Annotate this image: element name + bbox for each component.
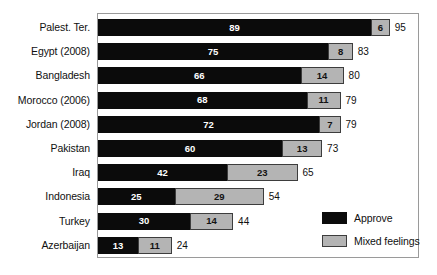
bar-total-value: 54 bbox=[264, 188, 280, 205]
bar-total-value: 73 bbox=[322, 140, 338, 157]
bar-segment-mixed-feelings[interactable]: 23 bbox=[227, 164, 298, 181]
chart-row: Morocco (2006)681179 bbox=[0, 92, 437, 109]
legend-label-approve: Approve bbox=[354, 212, 392, 224]
bar-value-mixed-feelings: 6 bbox=[378, 23, 383, 33]
bar-value-mixed-feelings: 14 bbox=[317, 71, 328, 81]
legend-label-mixed-feelings: Mixed feelings bbox=[354, 235, 420, 247]
chart-legend: Approve Mixed feelings bbox=[322, 210, 418, 256]
stacked-bar[interactable]: 6811 bbox=[98, 92, 341, 109]
bar-value-mixed-feelings: 14 bbox=[206, 216, 217, 226]
bar-total-value: 24 bbox=[172, 237, 188, 254]
row-label: Indonesia bbox=[45, 188, 90, 205]
chart-row: Bangladesh661480 bbox=[0, 67, 437, 84]
stacked-bar[interactable]: 727 bbox=[98, 116, 341, 133]
row-label: Turkey bbox=[59, 213, 90, 230]
legend-item-mixed-feelings[interactable]: Mixed feelings bbox=[322, 233, 418, 249]
chart-row: Iraq422365 bbox=[0, 164, 437, 181]
stacked-bar[interactable]: 4223 bbox=[98, 164, 298, 181]
bar-total-value: 80 bbox=[344, 67, 360, 84]
bar-value-approve: 72 bbox=[203, 120, 214, 130]
bar-total-value: 44 bbox=[233, 213, 249, 230]
chart-row: Jordan (2008)72779 bbox=[0, 116, 437, 133]
bar-total-value: 79 bbox=[341, 92, 357, 109]
row-label: Azerbaijan bbox=[41, 237, 90, 254]
bar-segment-mixed-feelings[interactable]: 11 bbox=[138, 237, 172, 254]
row-label: Palest. Ter. bbox=[39, 19, 90, 36]
bar-value-approve: 42 bbox=[157, 168, 168, 178]
stacked-bar[interactable]: 6614 bbox=[98, 67, 344, 84]
chart-row: Pakistan601373 bbox=[0, 140, 437, 157]
bar-value-mixed-feelings: 13 bbox=[297, 144, 308, 154]
bar-segment-mixed-feelings[interactable]: 8 bbox=[328, 43, 353, 60]
stacked-bar[interactable]: 758 bbox=[98, 43, 353, 60]
bar-value-mixed-feelings: 8 bbox=[338, 47, 343, 57]
bar-segment-approve[interactable]: 60 bbox=[98, 140, 282, 157]
row-label: Pakistan bbox=[51, 140, 90, 157]
bar-value-mixed-feelings: 7 bbox=[327, 120, 332, 130]
bar-segment-mixed-feelings[interactable]: 29 bbox=[175, 188, 264, 205]
bar-segment-mixed-feelings[interactable]: 14 bbox=[301, 67, 344, 84]
legend-swatch-approve-icon bbox=[322, 212, 347, 224]
bar-value-mixed-feelings: 11 bbox=[319, 95, 329, 105]
stacked-bar[interactable]: 1311 bbox=[98, 237, 172, 254]
bar-segment-mixed-feelings[interactable]: 6 bbox=[371, 19, 389, 36]
row-label: Jordan (2008) bbox=[26, 116, 90, 133]
row-label: Iraq bbox=[72, 164, 90, 181]
bar-value-approve: 66 bbox=[194, 71, 205, 81]
bar-segment-approve[interactable]: 42 bbox=[98, 164, 227, 181]
bar-total-value: 65 bbox=[298, 164, 314, 181]
bar-value-approve: 60 bbox=[185, 144, 196, 154]
legend-swatch-mixed-feelings-icon bbox=[322, 235, 347, 247]
chart-row: Indonesia252954 bbox=[0, 188, 437, 205]
bar-value-approve: 68 bbox=[197, 95, 208, 105]
bar-segment-approve[interactable]: 72 bbox=[98, 116, 319, 133]
bar-total-value: 79 bbox=[341, 116, 357, 133]
chart-row: Palest. Ter.89695 bbox=[0, 19, 437, 36]
bar-segment-approve[interactable]: 66 bbox=[98, 67, 301, 84]
legend-item-approve[interactable]: Approve bbox=[322, 210, 418, 226]
bar-value-mixed-feelings: 29 bbox=[214, 192, 225, 202]
bar-value-approve: 75 bbox=[208, 47, 219, 57]
bar-segment-mixed-feelings[interactable]: 14 bbox=[190, 213, 233, 230]
bar-segment-approve[interactable]: 30 bbox=[98, 213, 190, 230]
bar-segment-approve[interactable]: 68 bbox=[98, 92, 307, 109]
stacked-bar[interactable]: 896 bbox=[98, 19, 390, 36]
bar-value-approve: 30 bbox=[139, 216, 150, 226]
bar-value-mixed-feelings: 11 bbox=[150, 241, 160, 251]
stacked-bar[interactable]: 6013 bbox=[98, 140, 322, 157]
bar-segment-approve[interactable]: 25 bbox=[98, 188, 175, 205]
bar-segment-mixed-feelings[interactable]: 13 bbox=[282, 140, 322, 157]
bar-value-mixed-feelings: 23 bbox=[257, 168, 268, 178]
bar-total-value: 95 bbox=[390, 19, 406, 36]
bar-value-approve: 89 bbox=[229, 23, 240, 33]
bar-total-value: 83 bbox=[353, 43, 369, 60]
stacked-bar[interactable]: 3014 bbox=[98, 213, 233, 230]
stacked-bar-chart: Palest. Ter.89695Egypt (2008)75883Bangla… bbox=[0, 0, 437, 275]
bar-segment-approve[interactable]: 75 bbox=[98, 43, 328, 60]
bar-segment-approve[interactable]: 89 bbox=[98, 19, 371, 36]
row-label: Egypt (2008) bbox=[31, 43, 90, 60]
bar-value-approve: 25 bbox=[131, 192, 142, 202]
chart-row: Egypt (2008)75883 bbox=[0, 43, 437, 60]
bar-segment-mixed-feelings[interactable]: 11 bbox=[307, 92, 341, 109]
bar-segment-mixed-feelings[interactable]: 7 bbox=[319, 116, 340, 133]
stacked-bar[interactable]: 2529 bbox=[98, 188, 264, 205]
bar-segment-approve[interactable]: 13 bbox=[98, 237, 138, 254]
row-label: Bangladesh bbox=[36, 67, 90, 84]
row-label: Morocco (2006) bbox=[18, 92, 90, 109]
bar-value-approve: 13 bbox=[113, 241, 124, 251]
